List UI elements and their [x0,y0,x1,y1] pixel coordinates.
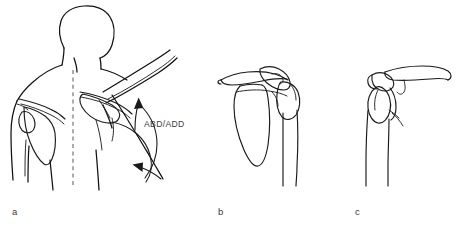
trunk-right-outline [96,150,99,190]
trunk-left-outline [50,160,53,190]
clavicle-c-lower [385,72,448,80]
left-arm-inner-crease [25,140,26,176]
humerus-shaft-c-lateral [388,119,389,186]
adduction-arrow-head [133,163,144,172]
clavicle-c-hook [397,80,405,94]
panel-label-a: a [12,206,18,217]
left-shoulder-outline [17,65,62,101]
right-shoulder-outline [101,69,127,80]
greater-tubercle-b [290,84,296,100]
panel-b: b [218,67,300,217]
left-spine-of-scapula [19,99,65,119]
left-arm-inner [28,146,29,182]
right-scapula-lateral-border [112,118,114,141]
figure-canvas: ABD/ADD a b [0,0,469,231]
humerus-shaft-c-medial [366,110,368,186]
scapula-spine-b [236,90,287,96]
scapula-body-b [234,85,270,166]
neck-outline-right [100,58,101,69]
panel-label-b: b [218,206,223,217]
right-scapula-inferior-angle [96,120,102,150]
motion-label-abd-add: ABD/ADD [144,119,185,129]
lesser-tubercle-c [375,90,378,110]
left-arm-outline [11,101,17,180]
neck-notch [74,58,77,72]
humeral-head-b [277,82,300,120]
anatomy-figure: ABD/ADD a b [0,0,469,231]
humerus-shaft-b-lateral [296,110,298,186]
panel-label-c: c [355,206,360,217]
abducted-arm-mid-crease [108,56,175,99]
humeral-head-c [368,87,391,124]
panel-c: c [355,66,451,217]
panel-a: ABD/ADD a [11,6,185,217]
clavicle-b-cap [218,80,221,84]
glenoid-notch-c [392,113,403,126]
range-of-motion-arc [112,122,151,182]
neck-outline-left [62,48,64,65]
abduction-arrow-head [134,98,143,110]
head-outline [60,6,114,58]
clavicle-c-upper [385,66,451,80]
left-humeral-head [19,111,35,132]
abduction-arrow-up [134,98,143,131]
